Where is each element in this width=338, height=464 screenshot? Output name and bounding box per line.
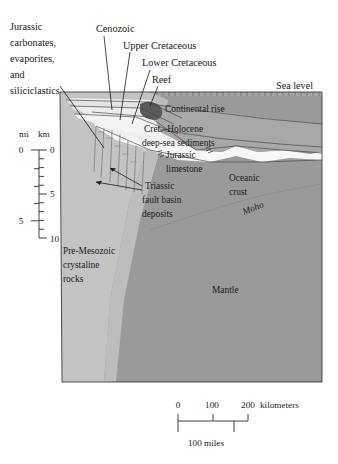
callout-jurassic-carbonates-line-3: and xyxy=(10,69,25,80)
callout-jurassic-carbonates-line-4: siliciclastics xyxy=(10,85,60,96)
label-triassic-line-1: fault basin xyxy=(142,195,182,205)
hscale-km-tick-2: 200 xyxy=(241,400,255,410)
hscale-km-tick-1: 100 xyxy=(205,400,219,410)
label-cret-holocene-line-1: deep-sea sediments xyxy=(142,138,215,148)
cross-section-block xyxy=(58,92,324,392)
label-pre-mesozoic-line-2: rocks xyxy=(63,274,84,284)
label-jurassic-limestone-line-1: limestone xyxy=(166,164,202,174)
label-oceanic-crust-line-0: Oceanic xyxy=(229,173,260,183)
label-oceanic-crust-line-1: crust xyxy=(229,187,248,197)
vscale-unit-mi: mi xyxy=(19,129,29,139)
callout-jurassic-carbonates-line-1: carbonates, xyxy=(10,37,56,48)
label-triassic-line-0: Triassic xyxy=(145,181,174,191)
vscale-mi-tick-0: 0 xyxy=(19,145,24,155)
callout-lower-cretaceous: Lower Cretaceous xyxy=(142,57,216,68)
hscale-mi-label: 100 miles xyxy=(188,438,224,448)
callout-jurassic-carbonates-line-0: Jurassic xyxy=(10,21,43,32)
label-mantle: Mantle xyxy=(212,285,239,295)
vertical-scale-bar: mi km 0 5 0 5 xyxy=(19,129,60,244)
horizontal-scale-bar: 0 100 200 kilometers 100 miles xyxy=(176,400,300,448)
label-pre-mesozoic-line-0: Pre-Mesozoic xyxy=(63,246,115,256)
label-continental-rise: Continental rise xyxy=(165,104,225,114)
hscale-km-tick-0: 0 xyxy=(176,400,181,410)
callout-upper-cretaceous: Upper Cretaceous xyxy=(123,40,196,51)
label-jurassic-limestone-line-0: Jurassic xyxy=(166,150,196,160)
callout-reef: Reef xyxy=(152,74,172,85)
label-pre-mesozoic-line-1: crystaline xyxy=(63,260,99,270)
vscale-mi-tick-1: 5 xyxy=(19,216,24,226)
label-sea-level: Sea level xyxy=(276,80,313,91)
callout-cenozoic: Cenozoic xyxy=(96,23,135,34)
figure-page: Jurassic carbonates, evaporites, and sil… xyxy=(0,0,338,464)
label-triassic-line-2: deposits xyxy=(142,209,173,219)
vscale-km-tick-0: 0 xyxy=(50,145,55,155)
cross-section-figure: Jurassic carbonates, evaporites, and sil… xyxy=(0,0,338,464)
vscale-km-tick-2: 10 xyxy=(50,234,60,244)
vscale-unit-km: km xyxy=(38,129,50,139)
label-cret-holocene-line-0: Cret.–Holocene xyxy=(144,124,203,134)
callout-jurassic-carbonates-line-2: evaporites, xyxy=(10,53,54,64)
callout-labels: Jurassic carbonates, evaporites, and sil… xyxy=(10,21,313,96)
hscale-km-unit: kilometers xyxy=(260,400,299,410)
vscale-km-tick-1: 5 xyxy=(50,189,55,199)
